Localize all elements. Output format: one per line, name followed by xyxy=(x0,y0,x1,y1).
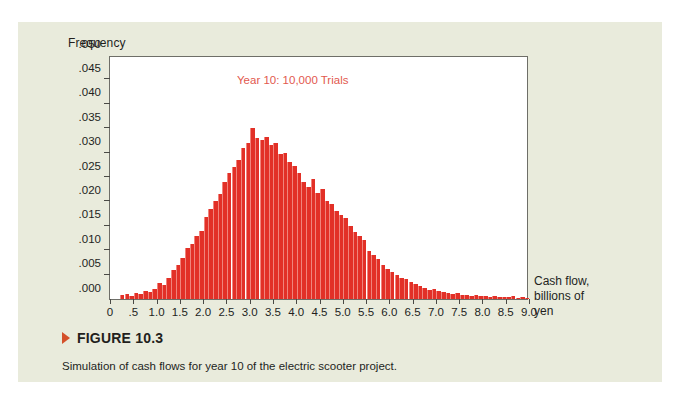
chart-annotation: Year 10: 10,000 Trials xyxy=(237,74,348,86)
y-axis-tick-label: .035 xyxy=(79,111,101,123)
x-axis-tick xyxy=(320,299,321,304)
x-axis-tick-label: 6.0 xyxy=(381,306,397,318)
x-axis-tick-label: 0 xyxy=(107,306,113,318)
x-axis-tick xyxy=(226,299,227,304)
figure-number: FIGURE 10.3 xyxy=(77,330,163,346)
x-axis-tick xyxy=(180,299,181,304)
triangle-marker-icon xyxy=(62,332,70,344)
y-axis-tick xyxy=(104,127,110,128)
x-axis-tick-label: 2.5 xyxy=(218,306,234,318)
x-axis-tick xyxy=(529,299,530,304)
plot-frame: .000.005.010.015.020.025.030.035.040.045… xyxy=(109,56,528,300)
y-axis-tick xyxy=(104,176,110,177)
x-axis-tick xyxy=(459,299,460,304)
x-axis-tick-label: 4.0 xyxy=(288,306,304,318)
y-axis-tick-label: .050 xyxy=(79,38,101,50)
x-axis-tick-label: 1.0 xyxy=(149,306,165,318)
histogram-bars xyxy=(110,57,527,299)
x-axis-tick-label: 4.5 xyxy=(312,306,328,318)
y-axis-tick-label: .000 xyxy=(79,282,101,294)
figure-caption-text: Simulation of cash flows for year 10 of … xyxy=(62,360,397,372)
x-axis-tick-label: 3.0 xyxy=(242,306,258,318)
x-axis-tick xyxy=(250,299,251,304)
x-axis-tick xyxy=(110,299,111,304)
y-axis-tick xyxy=(104,200,110,201)
x-axis-tick-label: 8.5 xyxy=(498,306,514,318)
x-axis-tick-label: 3.5 xyxy=(265,306,281,318)
x-axis-caption-line-3: yen xyxy=(534,304,589,319)
x-axis-tick xyxy=(203,299,204,304)
x-axis-tick xyxy=(133,299,134,304)
x-axis-tick-label: .5 xyxy=(128,306,138,318)
x-axis-tick xyxy=(366,299,367,304)
x-axis-caption-line-2: billions of xyxy=(534,289,589,304)
y-axis-tick-label: .005 xyxy=(79,257,101,269)
x-axis-tick xyxy=(273,299,274,304)
y-axis-tick-label: .010 xyxy=(79,233,101,245)
plot-inner: .000.005.010.015.020.025.030.035.040.045… xyxy=(110,57,527,299)
x-axis-tick-label: 8.0 xyxy=(474,306,490,318)
y-axis-tick-label: .040 xyxy=(79,86,101,98)
y-axis-tick-label: .025 xyxy=(79,160,101,172)
x-axis-tick-label: 5.0 xyxy=(335,306,351,318)
x-axis-tick-label: 6.5 xyxy=(405,306,421,318)
y-axis-tick xyxy=(104,103,110,104)
x-axis-tick-label: 5.5 xyxy=(358,306,374,318)
chart-area: Frequency .000.005.010.015.020.025.030.0… xyxy=(18,22,662,322)
y-axis-tick xyxy=(104,225,110,226)
x-axis-tick xyxy=(506,299,507,304)
y-axis-tick xyxy=(104,249,110,250)
figure-panel: Frequency .000.005.010.015.020.025.030.0… xyxy=(18,22,662,382)
x-axis-caption-line-1: Cash flow, xyxy=(534,274,589,289)
x-axis-tick xyxy=(436,299,437,304)
x-axis-tick-label: 2.0 xyxy=(195,306,211,318)
x-axis-tick xyxy=(413,299,414,304)
x-axis-tick xyxy=(343,299,344,304)
x-axis-tick-label: 1.5 xyxy=(172,306,188,318)
y-axis-tick-label: .030 xyxy=(79,135,101,147)
x-axis-tick xyxy=(482,299,483,304)
x-axis-tick xyxy=(389,299,390,304)
x-axis-tick-label: 7.5 xyxy=(451,306,467,318)
y-axis-tick-label: .045 xyxy=(79,62,101,74)
figure-heading: FIGURE 10.3 xyxy=(62,330,163,346)
x-axis-caption: Cash flow, billions of yen xyxy=(534,274,589,319)
x-axis-tick xyxy=(296,299,297,304)
y-axis-tick xyxy=(104,274,110,275)
y-axis-tick-label: .015 xyxy=(79,208,101,220)
y-axis-tick xyxy=(104,152,110,153)
y-axis-tick xyxy=(104,78,110,79)
x-axis-tick-label: 7.0 xyxy=(428,306,444,318)
x-axis-tick xyxy=(157,299,158,304)
y-axis-tick-label: .020 xyxy=(79,184,101,196)
